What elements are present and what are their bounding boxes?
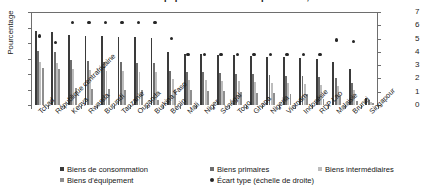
scatter-point bbox=[252, 53, 255, 56]
legend-dot-icon bbox=[210, 178, 214, 182]
legend-item-biens-d-equipement: Biens d'équipement bbox=[60, 176, 210, 185]
y-tick-right bbox=[377, 52, 381, 53]
legend-swatch-icon bbox=[60, 178, 64, 182]
y-tick-right bbox=[377, 78, 381, 79]
bar-group bbox=[283, 12, 292, 105]
y-tick-label-right: 1 bbox=[415, 88, 424, 96]
bar-group bbox=[85, 12, 94, 105]
y-tick-label-right: 5 bbox=[415, 35, 424, 43]
y-tick-left bbox=[28, 43, 32, 44]
bar-group bbox=[217, 12, 226, 105]
y-tick-left bbox=[28, 59, 32, 60]
y-tick-left bbox=[28, 12, 32, 13]
legend-label: Biens d'équipement bbox=[67, 176, 133, 185]
y-tick-left bbox=[28, 74, 32, 75]
y-tick-right bbox=[377, 12, 381, 13]
y-tick-label-right: 0 bbox=[415, 101, 424, 109]
bar bbox=[58, 69, 60, 105]
y-tick-left bbox=[28, 28, 32, 29]
legend-label: Écart type (échelle de droite) bbox=[217, 176, 314, 185]
bar-group bbox=[35, 12, 44, 105]
legend-item-biens-intermediaires: Biens intermédiaires bbox=[318, 165, 394, 174]
scatter-point bbox=[219, 53, 222, 56]
legend-label: Biens intermédiaires bbox=[325, 165, 394, 174]
y-tick-label-right: 6 bbox=[415, 21, 424, 29]
bar-group bbox=[250, 12, 259, 105]
scatter-point bbox=[335, 38, 338, 41]
legend-row-2: Biens d'équipementÉcart type (échelle de… bbox=[60, 169, 324, 180]
y-tick-label-right: 3 bbox=[415, 61, 424, 69]
scatter-point bbox=[87, 21, 90, 24]
scatter-point bbox=[120, 21, 123, 24]
scatter-point bbox=[352, 40, 355, 43]
bar-group bbox=[184, 12, 193, 105]
y-tick-right bbox=[377, 25, 381, 26]
scatter-point bbox=[318, 53, 321, 56]
scatter-point bbox=[38, 34, 41, 37]
legend-row-1: Biens de consommationBiens primairesBien… bbox=[60, 158, 404, 169]
y-axis-left-label: Pourcentage bbox=[6, 0, 15, 69]
bar-group bbox=[365, 12, 374, 105]
y-tick-label-right: 7 bbox=[415, 8, 424, 16]
bar-group bbox=[200, 12, 209, 105]
bar-group bbox=[51, 12, 60, 105]
y-tick-right bbox=[377, 39, 381, 40]
bar bbox=[42, 68, 44, 105]
y-tick-label-right: 2 bbox=[415, 74, 424, 82]
scatter-point bbox=[285, 53, 288, 56]
legend-item-ecart-type: Écart type (échelle de droite) bbox=[210, 176, 314, 185]
y-tick-right bbox=[377, 92, 381, 93]
y-tick-label-right: 4 bbox=[415, 48, 424, 56]
y-tick-left bbox=[28, 90, 32, 91]
scatter-point bbox=[153, 21, 156, 24]
chart-legend: Biens de consommationBiens primairesBien… bbox=[60, 158, 414, 182]
y-tick-right bbox=[377, 65, 381, 66]
x-axis-labels: TchadRépublique centrafricaineKenyaRwand… bbox=[0, 104, 414, 159]
bar-group bbox=[266, 12, 275, 105]
chart-title: Part des biens d'équipement dans les imp… bbox=[0, 0, 414, 2]
scatter-point bbox=[186, 53, 189, 56]
